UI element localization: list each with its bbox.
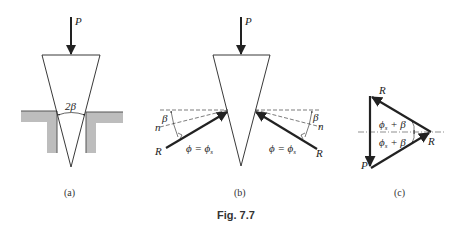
panel-b: P β n R ϕ = ϕs β n R ϕ = ϕs (b) bbox=[154, 15, 324, 199]
phi-label-right: ϕ = ϕs bbox=[269, 142, 296, 156]
ground-right bbox=[86, 112, 123, 153]
angle-arc-a bbox=[58, 113, 85, 116]
wedge-b bbox=[213, 55, 270, 166]
figure-canvas: P 2β (a) P β n R ϕ = ϕs β n R ϕ = ϕs (b) bbox=[0, 0, 465, 226]
load-label-a: P bbox=[74, 15, 82, 27]
phi-label-left: ϕ = ϕs bbox=[186, 142, 213, 156]
normal-label-left: n bbox=[155, 121, 161, 133]
beta-label-left: β bbox=[161, 112, 168, 124]
panel-label-a: (a) bbox=[64, 187, 75, 199]
panel-label-b: (b) bbox=[234, 187, 246, 199]
angle-label-lower: ϕs + β bbox=[379, 136, 406, 150]
panel-a: P 2β (a) bbox=[21, 15, 123, 199]
normal-label-right: n bbox=[318, 120, 324, 132]
load-label-b: P bbox=[244, 15, 252, 27]
vertex-label-right: R bbox=[427, 135, 435, 147]
angle-label-upper: ϕs + β bbox=[379, 118, 406, 132]
vertex-label-top: R bbox=[378, 84, 386, 96]
ground-left bbox=[21, 111, 57, 153]
reaction-label-left: R bbox=[154, 145, 162, 157]
panel-c: ϕs + β ϕs + β R R P (c) bbox=[358, 84, 445, 199]
right-angle-mark-right bbox=[301, 133, 305, 139]
figure-caption: Fig. 7.7 bbox=[217, 209, 255, 221]
reaction-label-right: R bbox=[315, 147, 323, 159]
panel-label-c: (c) bbox=[394, 187, 405, 199]
vertex-label-bottom: P bbox=[360, 159, 368, 171]
angle-label-a: 2β bbox=[65, 100, 77, 112]
